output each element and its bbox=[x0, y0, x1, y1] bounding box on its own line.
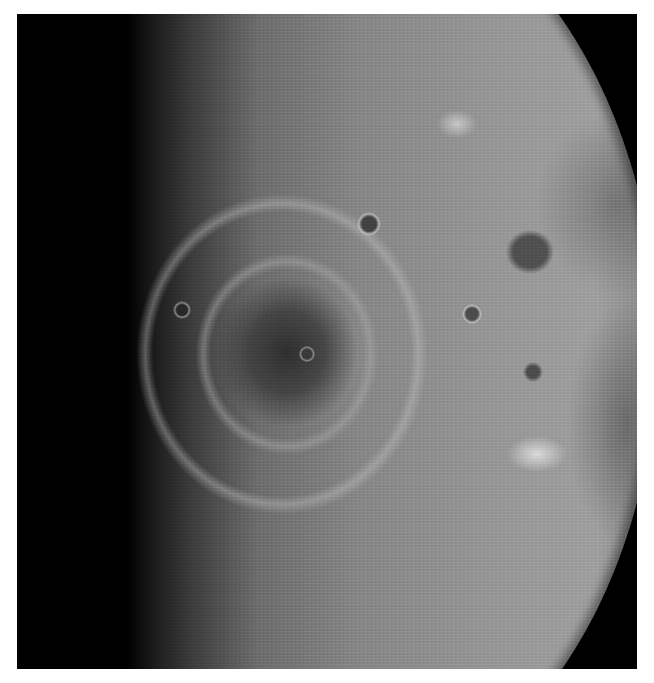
moon-surface bbox=[17, 14, 637, 669]
surface-texture bbox=[17, 14, 637, 669]
moon-photo-frame bbox=[17, 14, 637, 669]
